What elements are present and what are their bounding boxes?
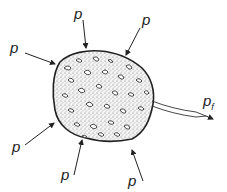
arrow-top	[83, 20, 86, 48]
pressure-label-top: p	[74, 6, 82, 21]
porous-body	[53, 51, 153, 141]
fluid-pressure-label: pf	[203, 93, 214, 112]
arrow-top-right	[126, 28, 140, 55]
arrow-bottom	[74, 140, 82, 175]
pressure-label-bottom-right: p	[128, 173, 136, 188]
arrow-bottom-left	[25, 123, 54, 145]
pressure-label-left: p	[10, 40, 18, 55]
fluid-pressure-subscript: f	[211, 102, 214, 112]
pressure-label-bottom: p	[61, 167, 69, 182]
porous-body-diagram	[0, 0, 227, 192]
pressure-label-bottom-left: p	[12, 139, 20, 154]
arrow-left	[25, 53, 55, 64]
pressure-label-top-right: p	[142, 12, 150, 27]
